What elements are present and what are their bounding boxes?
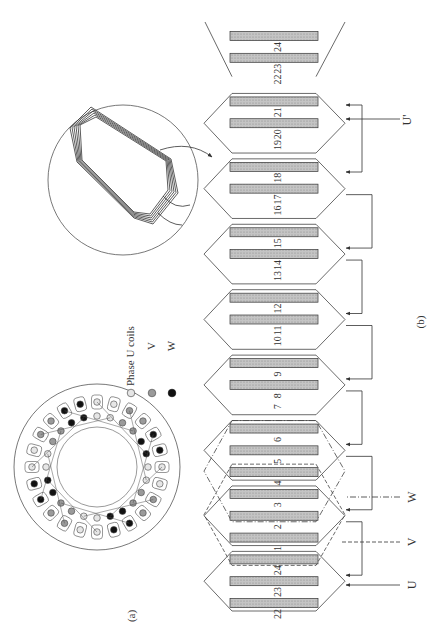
slot-number-label: 4 xyxy=(272,481,283,486)
slot-conductor-bar xyxy=(230,577,318,586)
legend-label-w: W xyxy=(165,340,177,351)
slot-conductor-bar xyxy=(230,489,318,498)
slot-number-label: 17 xyxy=(272,195,283,205)
stator-winding-diagram: (a) Phase U coils V W 242322212019181716… xyxy=(0,0,437,644)
slot-number-label: 12 xyxy=(272,304,283,314)
terminal-u: U xyxy=(405,580,419,589)
conductor-outer xyxy=(77,526,84,533)
slot-conductor-bar xyxy=(230,555,318,564)
slot-number-label: 1 xyxy=(272,546,283,551)
slot-conductor-bar xyxy=(230,32,318,41)
slot-number-label: 8 xyxy=(272,393,283,398)
slot-conductor-bar xyxy=(230,533,318,542)
slot-number-label: 2 xyxy=(272,524,283,529)
coil-inset xyxy=(48,105,212,255)
slot-number-label: 24 xyxy=(272,42,283,52)
conductor-outer xyxy=(140,418,147,425)
slot-conductor-bar xyxy=(230,511,318,520)
conductor-inner xyxy=(43,464,50,471)
developed-winding: 2423222120191817161514131211109876543212… xyxy=(204,22,400,619)
conductor-outer xyxy=(48,418,55,425)
conductor-outer xyxy=(48,510,55,517)
legend-dot-w-icon xyxy=(168,389,176,397)
legend-dot-u-icon xyxy=(127,389,135,397)
conductor-inner xyxy=(68,420,75,427)
terminal-v: V xyxy=(405,537,419,546)
conductor-outer xyxy=(111,526,118,533)
slot-number-label: 11 xyxy=(272,326,283,336)
conductor-inner xyxy=(119,508,126,515)
slot-number-label: 9 xyxy=(272,372,283,377)
slot-conductor-bar xyxy=(230,359,318,368)
slot-conductor-bar xyxy=(230,162,318,171)
slot-conductor-bar xyxy=(230,119,318,128)
conductor-inner xyxy=(50,438,57,445)
conductor-inner xyxy=(145,464,152,471)
slot-number-label: 6 xyxy=(272,437,283,442)
phase-legend: Phase U coils V W xyxy=(124,326,177,397)
conductor-outer xyxy=(77,401,84,408)
slot-number-label: 18 xyxy=(272,173,283,183)
conductor-outer xyxy=(156,481,163,488)
slot-number-label: 23 xyxy=(272,64,283,74)
slot-number-label: 21 xyxy=(272,107,283,117)
slot-conductor-bar xyxy=(230,53,318,62)
slot-number-label: 16 xyxy=(272,205,283,215)
terminal-w: W xyxy=(405,491,419,503)
slot-number-label: 15 xyxy=(272,238,283,248)
conductor-outer xyxy=(31,481,38,488)
slot-conductor-bar xyxy=(230,184,318,193)
conductor-inner xyxy=(119,420,126,427)
stator-bore xyxy=(57,427,137,507)
slot-number-label: 20 xyxy=(272,129,283,139)
slot-number-label: 5 xyxy=(272,459,283,464)
conductor-inner xyxy=(94,515,101,522)
slot-conductor-bar xyxy=(230,97,318,106)
slot-number-label: 7 xyxy=(272,404,283,409)
coil-end-open xyxy=(316,22,345,77)
slot-conductor-bar xyxy=(230,446,318,455)
legend-label-v: V xyxy=(145,342,157,350)
conductor-inner xyxy=(68,508,75,515)
slot-conductor-bar xyxy=(230,380,318,389)
slot-number-label: 13 xyxy=(272,271,283,281)
conductor-inner xyxy=(50,489,57,496)
slot-number-label: 3 xyxy=(272,502,283,507)
legend-label-u: Phase U coils xyxy=(124,326,136,386)
slot-number-label: 23 xyxy=(272,587,283,597)
slot-conductor-bar xyxy=(230,468,318,477)
slot-number-label: 22 xyxy=(272,609,283,619)
stator-cross-section xyxy=(14,384,180,550)
slot-number-label: 10 xyxy=(272,336,283,346)
panel-a-label: (a) xyxy=(125,610,138,623)
slot-number-label: 19 xyxy=(272,140,283,150)
slot-conductor-bar xyxy=(230,599,318,608)
conductor-outer xyxy=(156,447,163,454)
terminal-u-prime: U' xyxy=(400,115,414,126)
coil-end-open xyxy=(205,22,232,77)
slot-conductor-bar xyxy=(230,315,318,324)
slot-conductor-bar xyxy=(230,293,318,302)
slot-conductor-bar xyxy=(230,250,318,259)
slot-conductor-bar xyxy=(230,424,318,433)
slot-number-label: 14 xyxy=(272,260,283,270)
slot-conductor-bar xyxy=(230,228,318,237)
conductor-outer xyxy=(111,401,118,408)
legend-dot-v-icon xyxy=(148,389,156,397)
slot-number-label: 22 xyxy=(272,75,283,85)
conductor-outer xyxy=(140,510,147,517)
slot-number-label: 24 xyxy=(272,565,283,575)
conductor-inner xyxy=(138,489,145,496)
conductor-inner xyxy=(138,438,145,445)
conductor-inner xyxy=(94,413,101,420)
panel-b-label: (b) xyxy=(414,315,427,328)
conductor-outer xyxy=(31,447,38,454)
